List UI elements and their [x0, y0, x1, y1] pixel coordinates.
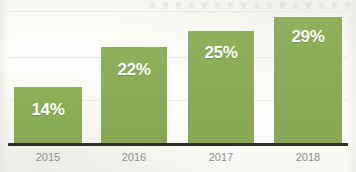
bar-value-2016: 22% — [101, 60, 167, 80]
x-axis-label-2015: 2015 — [14, 151, 82, 163]
bar-chart: 14% 22% 25% 29% 2015 2016 2017 2018 — [0, 0, 356, 172]
bar-value-2015: 14% — [14, 100, 82, 120]
x-axis-label-2017: 2017 — [188, 151, 254, 163]
plot-area: 14% 22% 25% 29% 2015 2016 2017 2018 — [0, 0, 356, 172]
x-axis-baseline — [8, 143, 348, 146]
cropped-text-fragment — [150, 2, 350, 9]
x-axis-label-2016: 2016 — [101, 151, 167, 163]
gridline-1 — [8, 11, 348, 12]
x-axis-label-2018: 2018 — [274, 151, 342, 163]
bar-value-2018: 29% — [274, 27, 342, 47]
bar-value-2017: 25% — [188, 43, 254, 63]
